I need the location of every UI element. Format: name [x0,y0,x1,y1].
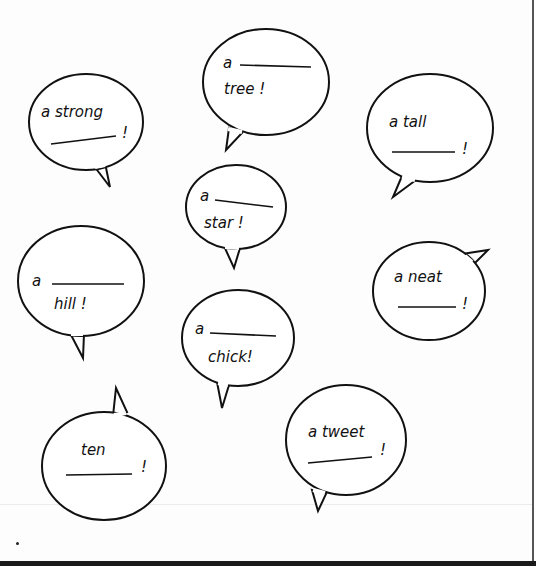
speech-bubble-tree: a tree ! [203,29,329,150]
speech-bubbles: a tree ! a strong ! a tall ! a [0,0,536,566]
speech-bubble-strong: a strong ! [29,74,143,187]
bubble-chick-prefix: a [195,320,204,338]
bubble-star-prefix: a [200,187,209,205]
bubble-ten-exclaim: ! [141,458,147,476]
bubble-neat-phrase: a neat [394,268,443,286]
bubble-ten-phrase: ten [81,441,106,459]
answer-blank-ten [66,474,132,475]
bubble-tall-phrase: a tall [389,113,427,131]
bubble-strong-phrase: a strong [41,103,103,121]
speech-bubble-ten: ten ! [42,388,166,520]
bubble-star-word: star ! [204,214,244,232]
speech-bubble-star: a star ! [186,165,286,268]
bubble-tweet-exclaim: ! [380,441,386,459]
bubble-tweet-phrase: a tweet [308,423,366,441]
speech-bubble-tweet: a tweet ! [286,385,406,511]
bubble-tall-exclaim: ! [462,140,468,158]
speech-bubble-hill: a hill ! [18,226,144,358]
speech-bubble-neat: a neat ! [373,242,488,340]
bubble-hill-word: hill ! [54,295,87,313]
bubble-tree-word: tree ! [224,80,265,98]
bubble-strong-exclaim: ! [122,124,128,142]
speech-bubble-tall: a tall ! [367,74,493,197]
bubble-hill-prefix: a [32,272,41,290]
bubble-tree-prefix: a [223,54,232,72]
bubble-chick-word: chick! [208,348,253,366]
bubble-neat-exclaim: ! [462,295,468,313]
speech-bubble-chick: a chick! [182,290,294,408]
worksheet-page: a tree ! a strong ! a tall ! a [0,0,536,566]
